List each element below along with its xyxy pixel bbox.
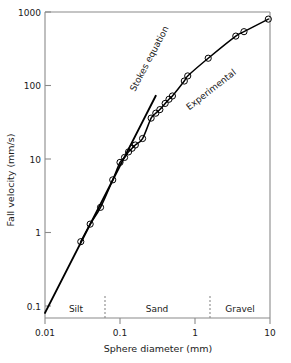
x-axis-ticks [45, 318, 270, 324]
plot-frame [45, 12, 270, 318]
y-tick-label-1: 1 [35, 228, 41, 238]
x-axis-title: Sphere diameter (mm) [104, 343, 213, 354]
data-point-marker [241, 29, 247, 35]
data-point-marker [148, 115, 154, 121]
data-point-marker [121, 154, 127, 160]
data-point-marker [110, 177, 116, 183]
curve-label-experimental: Experimental [184, 67, 237, 112]
data-point-marker [265, 16, 271, 22]
y-axis-ticks [45, 12, 51, 306]
y-tick-label-100: 100 [24, 81, 41, 91]
chart-svg: 1000 100 10 1 0.1 0.01 0.1 1 10 Sphere d… [0, 0, 291, 363]
zone-label-silt: Silt [69, 304, 84, 314]
zone-label-sand: Sand [146, 304, 169, 314]
curve-label-stokes-equation: Stokes equation [128, 24, 171, 93]
data-point-marker [185, 73, 191, 79]
data-series-layer [45, 16, 271, 313]
data-point-marker [233, 33, 239, 39]
y-axis-title: Fall velocity (mm/s) [5, 134, 16, 227]
y-tick-label-10: 10 [30, 155, 42, 165]
x-tick-label-10: 10 [264, 328, 276, 338]
data-point-marker [87, 221, 93, 227]
x-tick-label-1: 1 [192, 328, 198, 338]
data-point-marker [205, 55, 211, 61]
data-point-marker [139, 135, 145, 141]
data-point-marker [132, 142, 138, 148]
fall-velocity-chart: 1000 100 10 1 0.1 0.01 0.1 1 10 Sphere d… [0, 0, 291, 363]
x-tick-label-0.1: 0.1 [113, 328, 127, 338]
experimental-curve [81, 19, 269, 242]
data-point-marker [97, 204, 103, 210]
y-tick-label-0.1: 0.1 [27, 302, 41, 312]
zone-label-gravel: Gravel [225, 304, 255, 314]
data-point-marker [157, 107, 163, 113]
y-tick-label-1000: 1000 [18, 8, 41, 18]
data-point-marker [117, 159, 123, 165]
data-point-marker [169, 93, 175, 99]
x-tick-label-0.01: 0.01 [35, 328, 55, 338]
data-point-marker [78, 239, 84, 245]
